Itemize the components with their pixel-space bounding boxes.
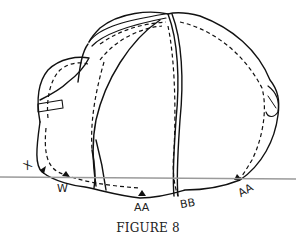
label-bb: BB [179,197,196,210]
label-aa-center: AA [134,202,149,213]
notch-w [62,171,70,177]
cap-outer-outline [37,12,279,198]
notch-aa-center [138,190,146,196]
cap-left-lobe [38,57,89,122]
horizontal-rule [0,177,296,179]
notch-x [40,166,46,174]
label-w: W [57,183,68,194]
figure-caption: FIGURE 8 [0,221,296,235]
